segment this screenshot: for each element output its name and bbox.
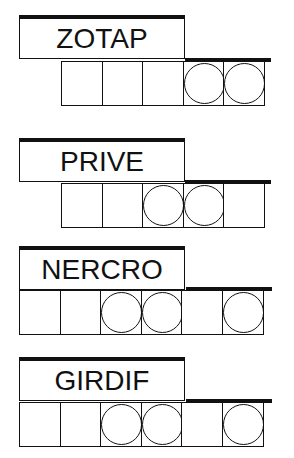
answer-cell[interactable] (60, 402, 102, 447)
answer-cell[interactable] (181, 402, 223, 447)
circled-answer-cell[interactable] (141, 402, 183, 447)
scrambled-word: ZOTAP (19, 15, 185, 59)
circled-answer-cell[interactable] (141, 290, 183, 335)
scrambled-word: NERCRO (19, 246, 185, 290)
circled-answer-cell[interactable] (223, 61, 265, 106)
answer-cell[interactable] (61, 61, 103, 106)
answer-cells (19, 402, 264, 447)
answer-cell[interactable] (142, 61, 184, 106)
scrambled-word: GIRDIF (19, 357, 185, 401)
circled-answer-cell[interactable] (100, 402, 142, 447)
answer-cells (61, 61, 265, 106)
circled-answer-cell[interactable] (183, 183, 225, 228)
circled-answer-cell[interactable] (100, 290, 142, 335)
scrambled-word: PRIVE (19, 138, 185, 182)
answer-cells (61, 183, 265, 228)
answer-cell[interactable] (60, 290, 102, 335)
answer-cell[interactable] (61, 183, 103, 228)
answer-cells (19, 290, 264, 335)
circled-answer-cell[interactable] (183, 61, 225, 106)
circled-answer-cell[interactable] (222, 290, 264, 335)
circled-answer-cell[interactable] (142, 183, 184, 228)
answer-cell[interactable] (223, 183, 265, 228)
circled-answer-cell[interactable] (222, 402, 264, 447)
answer-cell[interactable] (181, 290, 223, 335)
answer-cell[interactable] (19, 402, 61, 447)
answer-cell[interactable] (102, 183, 144, 228)
answer-cell[interactable] (19, 290, 61, 335)
answer-cell[interactable] (102, 61, 144, 106)
